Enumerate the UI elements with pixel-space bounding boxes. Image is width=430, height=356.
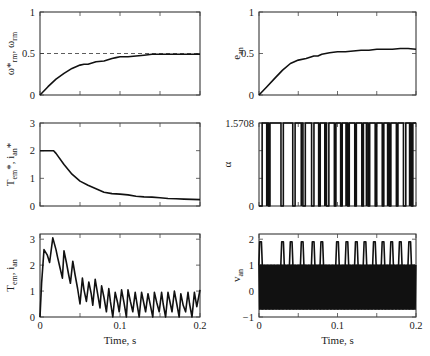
x-tick-label: 0.2 xyxy=(409,320,422,331)
pulse-bar xyxy=(366,123,368,206)
y-axis-title-subscript: an xyxy=(236,269,245,277)
y-axis-title: Tem, ian xyxy=(4,259,19,292)
y-axis-title-subscript: an xyxy=(236,47,245,55)
series-line-ωrm xyxy=(40,54,200,95)
y-axis-title-part: , i xyxy=(4,267,16,276)
voltage-spike xyxy=(363,242,366,265)
x-tick-label: 0 xyxy=(37,320,42,331)
voltage-spike xyxy=(408,242,411,265)
x-tick-label: 0.1 xyxy=(331,320,344,331)
plot-frame xyxy=(259,12,416,95)
y-tick-label: 1 xyxy=(30,173,35,184)
y-tick-label: 1 xyxy=(30,286,35,297)
y-axis-title-part: *, i xyxy=(4,156,16,170)
y-tick-label: 3 xyxy=(30,118,35,129)
figure-canvas: 00.51ω*rm, ωrm00.51ean0123Tem*, ian*01.5… xyxy=(0,0,430,356)
pulse-bar xyxy=(387,123,389,206)
y-axis-title-part: α xyxy=(221,161,233,167)
y-tick-label: 0 xyxy=(249,90,254,101)
voltage-spike xyxy=(320,242,323,265)
voltage-spike xyxy=(300,242,303,265)
y-tick-label: 2 xyxy=(30,260,35,271)
chart-panel-voltage: 00.10.2−1012vanTime, s xyxy=(230,234,423,346)
voltage-spike xyxy=(336,242,339,265)
pulse-bar xyxy=(409,123,411,206)
voltage-spike xyxy=(259,242,262,265)
pulse-bar xyxy=(324,123,326,206)
y-axis-title-part: ω* xyxy=(4,62,16,75)
voltage-spike xyxy=(281,242,284,265)
voltage-spike xyxy=(355,242,358,265)
y-axis-title: van xyxy=(230,269,245,282)
x-tick-label: 0.2 xyxy=(193,320,206,331)
y-tick-label: 1.5708 xyxy=(225,118,254,129)
x-axis-title: Time, s xyxy=(321,334,354,346)
series-line-ean xyxy=(259,49,416,96)
y-tick-label: 1 xyxy=(249,7,254,18)
chart-panel-firing-angle: 01.5708α xyxy=(221,118,416,212)
voltage-spike xyxy=(289,242,292,265)
voltage-spike xyxy=(345,242,348,265)
chart-panel-torque-reference: 0123Tem*, ian* xyxy=(4,118,200,212)
y-tick-label: 2 xyxy=(249,234,254,245)
y-axis-title-subscript: an xyxy=(10,259,19,267)
voltage-spike xyxy=(311,242,314,265)
pulse-bar xyxy=(266,123,268,206)
y-tick-label: 0 xyxy=(30,201,35,212)
y-tick-label: −1 xyxy=(243,312,254,323)
series-line-α xyxy=(259,123,416,206)
x-tick-label: 0 xyxy=(256,320,261,331)
y-axis-title-part: , ω xyxy=(4,41,16,54)
y-tick-label: 0.5 xyxy=(22,48,35,59)
series-line-T*em xyxy=(40,151,200,200)
y-tick-label: 0 xyxy=(249,286,254,297)
series-line-ian xyxy=(40,238,200,317)
voltage-spike xyxy=(381,242,384,265)
y-axis-title-part: * xyxy=(4,143,16,149)
voltage-spike xyxy=(390,242,393,265)
y-axis-title: ω*rm, ωrm xyxy=(4,31,19,75)
pulse-bar xyxy=(300,123,302,206)
voltage-spike xyxy=(373,242,376,265)
y-tick-label: 2 xyxy=(30,145,35,156)
y-axis-title-subscript: an xyxy=(10,148,19,156)
y-tick-label: 0 xyxy=(249,201,254,212)
y-axis-title: Tem*, ian* xyxy=(4,143,19,187)
y-tick-label: 0 xyxy=(30,312,35,323)
x-axis-title: Time, s xyxy=(104,334,137,346)
voltage-spike xyxy=(399,242,402,265)
y-tick-label: 1 xyxy=(249,260,254,271)
pulse-bar xyxy=(345,123,347,206)
y-tick-label: 0 xyxy=(30,90,35,101)
y-axis-title: α xyxy=(221,161,233,167)
series-line-van xyxy=(259,265,416,309)
y-axis-title-subscript: rm xyxy=(10,31,19,41)
chart-panel-current: 00.10.20123Tem, ianTime, s xyxy=(4,234,207,346)
x-tick-label: 0.1 xyxy=(113,320,126,331)
y-tick-label: 1 xyxy=(30,7,35,18)
chart-panel-efficiency-control: 00.51ean xyxy=(230,7,416,101)
y-tick-label: 3 xyxy=(30,234,35,245)
chart-panel-speed: 00.51ω*rm, ωrm xyxy=(4,7,200,101)
